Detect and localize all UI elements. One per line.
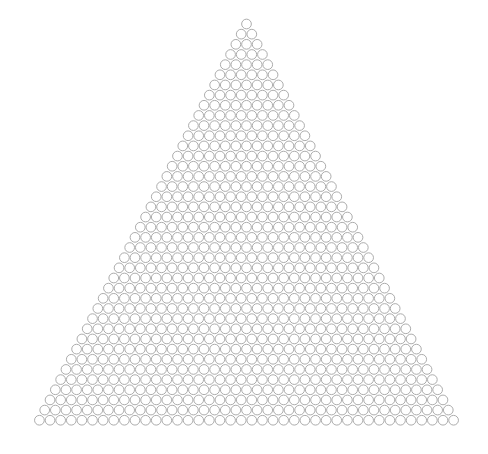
packing-circle <box>327 263 337 273</box>
packing-circle <box>321 395 331 405</box>
packing-circle <box>305 161 315 171</box>
packing-circle <box>183 334 193 344</box>
packing-circle <box>284 141 294 151</box>
packing-circle <box>226 70 236 80</box>
packing-circle <box>321 233 331 243</box>
packing-circle <box>215 293 225 303</box>
packing-circle <box>295 385 305 395</box>
packing-circle <box>173 354 183 364</box>
packing-circle <box>173 151 183 161</box>
packing-circle <box>56 395 66 405</box>
packing-circle <box>364 354 374 364</box>
packing-circle <box>199 365 209 375</box>
packing-circle <box>289 151 299 161</box>
packing-circle <box>438 415 448 425</box>
packing-circle <box>337 385 347 395</box>
packing-circle <box>305 182 315 192</box>
packing-circle <box>173 293 183 303</box>
packing-circle <box>258 50 268 60</box>
packing-circle <box>220 365 230 375</box>
packing-circle <box>82 385 92 395</box>
packing-circle <box>274 100 284 110</box>
packing-circle <box>141 354 151 364</box>
packing-circle <box>146 222 156 232</box>
packing-circle <box>114 385 124 395</box>
packing-circle <box>385 293 395 303</box>
packing-circle <box>385 354 395 364</box>
packing-circle <box>268 314 278 324</box>
packing-circle <box>252 121 262 131</box>
packing-circle <box>178 344 188 354</box>
packing-circle <box>135 222 145 232</box>
packing-circle <box>300 375 310 385</box>
packing-circle <box>337 324 347 334</box>
packing-circle <box>204 293 214 303</box>
packing-circle <box>210 80 220 90</box>
packing-circle <box>263 365 273 375</box>
packing-circle <box>236 131 246 141</box>
packing-circle <box>268 273 278 283</box>
packing-circle <box>173 314 183 324</box>
packing-circle <box>130 293 140 303</box>
packing-circle <box>242 263 252 273</box>
packing-circle <box>236 50 246 60</box>
packing-circle <box>263 161 273 171</box>
packing-circle <box>183 415 193 425</box>
packing-circle <box>311 293 321 303</box>
packing-circle <box>173 334 183 344</box>
figure-canvas <box>0 0 488 454</box>
packing-circle <box>358 263 368 273</box>
packing-circle <box>279 354 289 364</box>
packing-circle <box>263 324 273 334</box>
packing-circle <box>183 253 193 263</box>
packing-circle <box>231 324 241 334</box>
packing-circle <box>77 395 87 405</box>
packing-circle <box>406 354 416 364</box>
packing-circle <box>258 334 268 344</box>
packing-circle <box>125 263 135 273</box>
packing-circle <box>226 395 236 405</box>
packing-circle <box>120 395 130 405</box>
packing-circle <box>215 111 225 121</box>
packing-circle <box>358 324 368 334</box>
packing-circle <box>428 415 438 425</box>
packing-circle <box>226 212 236 222</box>
packing-circle <box>189 161 199 171</box>
packing-circle <box>305 263 315 273</box>
packing-circle <box>199 243 209 253</box>
packing-circle <box>173 415 183 425</box>
packing-circle <box>93 365 103 375</box>
packing-circle <box>178 405 188 415</box>
packing-circle <box>327 283 337 293</box>
packing-circle <box>162 172 172 182</box>
packing-circle <box>135 385 145 395</box>
packing-circle <box>274 405 284 415</box>
packing-circle <box>380 365 390 375</box>
packing-circle <box>194 253 204 263</box>
packing-circle <box>252 222 262 232</box>
packing-circle <box>252 100 262 110</box>
packing-circle <box>327 182 337 192</box>
packing-circle <box>263 243 273 253</box>
packing-circle <box>247 375 257 385</box>
packing-circle <box>396 354 406 364</box>
packing-circle <box>146 202 156 212</box>
packing-circle <box>305 141 315 151</box>
packing-circle <box>242 100 252 110</box>
packing-circle <box>220 385 230 395</box>
packing-circle <box>189 304 199 314</box>
packing-circle <box>120 253 130 263</box>
packing-circle <box>305 405 315 415</box>
packing-circle <box>56 415 66 425</box>
packing-circle <box>300 354 310 364</box>
packing-circle <box>178 385 188 395</box>
packing-circle <box>321 212 331 222</box>
packing-circle <box>226 273 236 283</box>
packing-circle <box>157 222 167 232</box>
packing-circle <box>162 375 172 385</box>
packing-circle <box>204 334 214 344</box>
packing-circle <box>358 304 368 314</box>
packing-circle <box>305 283 315 293</box>
packing-circle <box>268 415 278 425</box>
packing-circle <box>146 365 156 375</box>
